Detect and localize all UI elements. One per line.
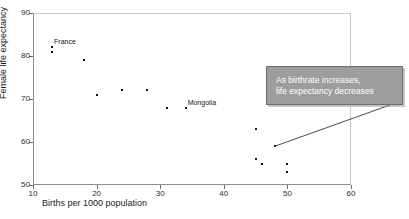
y-tick-label: 80 [21, 52, 30, 60]
x-tick-label: 40 [219, 190, 228, 198]
x-tick-label: 30 [156, 190, 165, 198]
callout-line-2: life expectancy decreases [276, 86, 402, 97]
data-point [255, 158, 257, 160]
data-point [51, 51, 53, 53]
y-tick-label: 90 [21, 9, 30, 17]
data-point [83, 59, 85, 61]
y-tick-label: 60 [21, 138, 30, 146]
x-axis-title: Births per 1000 population [42, 198, 147, 208]
data-point [166, 107, 168, 109]
data-point [286, 171, 288, 173]
callout-line-1: As birthrate increases, [276, 75, 402, 86]
point-label-mongolia: Mongolia [188, 99, 216, 107]
y-tick-label: 50 [21, 181, 30, 189]
data-point [96, 94, 98, 96]
data-point [121, 89, 123, 91]
data-point [146, 89, 148, 91]
y-tick-label: 70 [21, 95, 30, 103]
point-label-france: France [54, 38, 76, 46]
data-point [286, 163, 288, 165]
x-tick-label: 50 [283, 190, 292, 198]
x-tick-label: 10 [29, 190, 38, 198]
data-point [255, 128, 257, 130]
callout-annotation: As birthrate increases, life expectancy … [266, 66, 403, 105]
scatter-chart: 5060708090 102030405060 FranceMongolia F… [0, 0, 409, 219]
y-axis-title: Female life expectancy [0, 7, 8, 99]
x-tick-label: 60 [347, 190, 356, 198]
data-point [185, 107, 187, 109]
data-point [51, 46, 53, 48]
x-tick-label: 20 [92, 190, 101, 198]
data-point [261, 163, 263, 165]
data-point [274, 145, 276, 147]
